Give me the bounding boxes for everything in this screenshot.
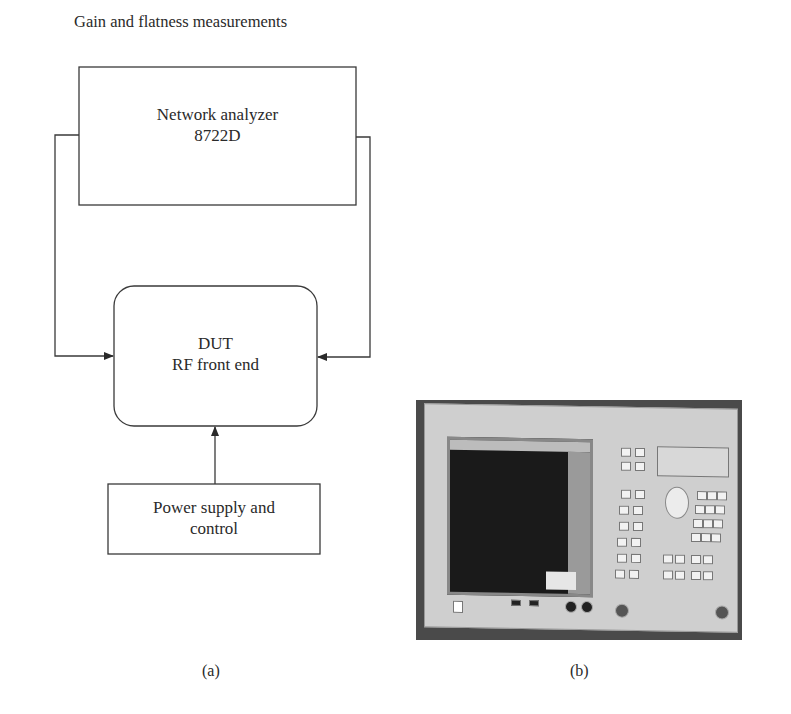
key-icon [621,462,631,471]
key-icon [717,491,727,500]
dut-label: DUT RF front end [114,333,317,375]
key-icon [675,555,685,564]
dut-description: RF front end [114,354,317,375]
key-icon [617,538,627,547]
connector-port-icon [581,601,593,613]
key-icon [631,554,641,563]
power-switch-icon [453,601,463,613]
key-icon [713,519,723,528]
instrument-display [657,446,729,477]
key-icon [663,570,673,579]
network-analyzer-photo [416,400,742,640]
rf-port-1-icon [615,604,629,618]
key-icon [693,519,703,528]
key-icon [691,571,701,580]
key-icon [691,555,701,564]
power-supply-label: Power supply and control [108,497,320,539]
power-supply-line1: Power supply and [108,497,320,518]
key-icon [715,505,725,514]
key-icon [691,533,701,542]
key-icon [619,506,629,515]
key-icon [695,505,705,514]
instrument-screen [447,437,593,598]
key-icon [675,571,685,580]
key-icon [703,571,713,580]
key-icon [629,570,639,579]
usb-port-icon [511,600,521,606]
panel-a-label: (a) [202,662,220,680]
key-icon [635,448,645,457]
key-icon [621,448,631,457]
key-icon [619,522,629,531]
key-icon [703,519,713,528]
key-icon [697,491,707,500]
network-analyzer-label: Network analyzer 8722D [79,104,356,146]
key-icon [621,490,631,499]
rf-port-2-icon [715,605,729,619]
key-icon [633,522,643,531]
key-icon [617,554,627,563]
right-connection-arrow [318,137,370,357]
network-analyzer-name: Network analyzer [79,104,356,125]
key-icon [615,570,625,579]
key-icon [663,554,673,563]
key-icon [703,555,713,564]
instrument-front-panel [424,403,738,632]
connector-port-icon [565,601,577,613]
key-icon [711,533,721,542]
left-connection-arrow [55,135,113,356]
usb-port-icon [529,600,539,606]
instrument-knob-icon [665,486,689,518]
key-icon [633,506,643,515]
key-icon [635,490,645,499]
panel-b-label: (b) [570,662,589,680]
key-icon [707,491,717,500]
power-supply-line2: control [108,518,320,539]
key-icon [635,462,645,471]
dut-name: DUT [114,333,317,354]
network-analyzer-model: 8722D [79,125,356,146]
key-icon [631,538,641,547]
key-icon [705,505,715,514]
key-icon [701,533,711,542]
